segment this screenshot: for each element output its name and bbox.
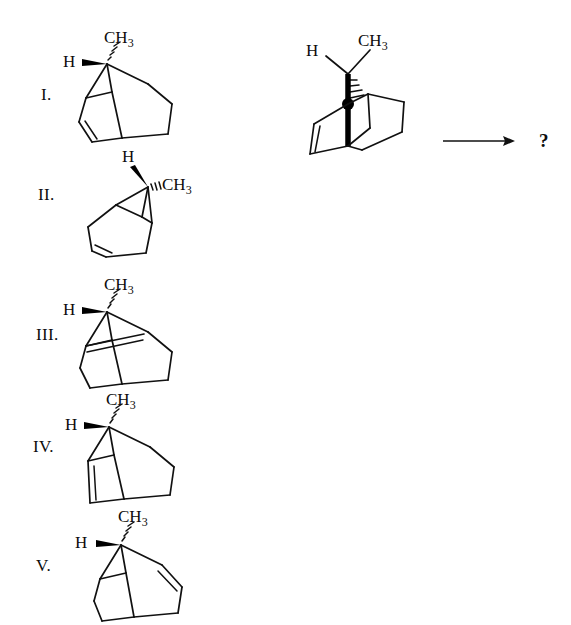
double-bond-outer-II bbox=[92, 251, 106, 257]
double-bond-outer-I bbox=[79, 122, 92, 142]
h-wedge-bond-IV bbox=[84, 422, 109, 429]
cyclopropane-bond-b-II bbox=[116, 205, 142, 217]
ring-bond-2-I bbox=[148, 84, 172, 104]
option-label-II: II. bbox=[38, 185, 54, 205]
ring-bond-4-II bbox=[88, 205, 116, 227]
bridge-bond-III bbox=[112, 340, 122, 384]
structure-option-IV: H CH3 bbox=[62, 388, 192, 508]
structure-option-V: H CH3 bbox=[72, 505, 202, 623]
h-wedge-bond-III bbox=[82, 307, 107, 314]
ring-bond-2-III bbox=[148, 332, 172, 352]
cyclopropane-bond-a-I bbox=[86, 64, 107, 98]
ring-bond-5-II bbox=[88, 227, 92, 251]
hash-bond-reactant bbox=[350, 80, 364, 98]
double-bond-inner-II bbox=[95, 245, 112, 253]
cyclopropane-bond-a-III bbox=[86, 312, 107, 346]
ring-bond-r7-reactant bbox=[348, 128, 370, 146]
option-label-V: V. bbox=[36, 556, 51, 576]
ring-bond-4-IV bbox=[124, 495, 170, 499]
ring-bond-6-III bbox=[80, 346, 86, 368]
ring-bond-1-V bbox=[121, 545, 162, 565]
ring-bond-r6-reactant bbox=[368, 94, 370, 128]
ring-bond-1-II bbox=[148, 187, 152, 223]
methyl-label-I: CH3 bbox=[104, 28, 134, 50]
cyclopropane-bond-c-II bbox=[142, 187, 148, 217]
methyl-label-reactant: CH3 bbox=[358, 31, 388, 53]
bridge-bond-V bbox=[126, 573, 134, 617]
ring-bond-3-IV bbox=[170, 467, 174, 495]
ring-bond-r5-reactant bbox=[348, 146, 362, 150]
h-label-II: H bbox=[122, 147, 134, 166]
ring-bond-r2-reactant bbox=[368, 94, 404, 102]
question-mark: ? bbox=[539, 130, 549, 152]
methyl-label-III: CH3 bbox=[104, 275, 134, 297]
ring-bond-6-I bbox=[79, 98, 86, 122]
double-bond-inner-reactant bbox=[315, 126, 320, 152]
double-bond-outer-V bbox=[162, 565, 182, 587]
h-wedge-bond-II bbox=[130, 165, 148, 187]
cyclopropane-bond-c-I bbox=[107, 64, 112, 92]
double-bond-outer-III bbox=[86, 334, 144, 346]
ring-bond-r3-reactant bbox=[402, 102, 404, 132]
double-bond-inner-I bbox=[85, 121, 97, 139]
structure-option-I: H CH3 bbox=[60, 26, 190, 151]
double-bond-inner-IV bbox=[94, 466, 96, 500]
ring-bond-5-V bbox=[102, 617, 134, 621]
ring-bond-l1-reactant bbox=[314, 104, 348, 124]
ring-bond-6-V bbox=[94, 579, 100, 601]
ring-bond-1-I bbox=[107, 64, 148, 84]
double-bond-outer-reactant bbox=[310, 124, 314, 154]
ring-bond-7-III bbox=[80, 368, 90, 388]
cyclopropane-bond-c-III bbox=[107, 312, 112, 340]
ring-bond-4-I bbox=[122, 134, 168, 138]
ring-bond-r4-reactant bbox=[362, 132, 402, 150]
methyl-hash-bond-II bbox=[151, 182, 161, 190]
ring-bond-3-V bbox=[178, 587, 182, 613]
cyclopropane-bond-c-V bbox=[121, 545, 126, 573]
cyclopropane-bond-a-V bbox=[100, 545, 121, 579]
ring-bond-3-III bbox=[168, 352, 172, 380]
methyl-label-II: CH3 bbox=[162, 175, 192, 197]
h-wedge-bond-I bbox=[82, 59, 107, 66]
reaction-arrow bbox=[443, 130, 523, 152]
methyl-label-V: CH3 bbox=[118, 507, 148, 529]
structure-reactant: H CH3 bbox=[300, 28, 440, 158]
h-label-V: H bbox=[75, 533, 87, 552]
ring-bond-2-II bbox=[146, 223, 152, 253]
ring-bond-4-V bbox=[134, 613, 178, 617]
ring-bond-4-III bbox=[122, 380, 168, 384]
ring-bond-1-III bbox=[107, 312, 148, 332]
option-label-I: I. bbox=[41, 85, 52, 105]
structure-option-II: H CH3 bbox=[80, 145, 215, 270]
bridge-bond-IV bbox=[114, 455, 124, 499]
double-bond-outer-IV bbox=[88, 461, 90, 503]
ring-bond-1-IV bbox=[109, 427, 150, 447]
chemistry-question-figure: I. H CH3 bbox=[0, 0, 571, 625]
double-bond-inner-V bbox=[158, 571, 177, 591]
ring-bond-2-IV bbox=[150, 447, 174, 467]
bridge-bond-I bbox=[112, 92, 122, 138]
cyclopropane-bond-a-II bbox=[116, 187, 148, 205]
h-wedge-bond-V bbox=[96, 540, 121, 547]
h-label-reactant: H bbox=[306, 41, 318, 60]
cyclopropane-bond-a-IV bbox=[88, 427, 109, 461]
ring-bond-7-V bbox=[94, 601, 102, 621]
ring-bond-3-I bbox=[168, 104, 172, 134]
methyl-label-IV: CH3 bbox=[106, 390, 136, 412]
bridge-bond-II bbox=[142, 217, 152, 223]
h-label-I: H bbox=[63, 52, 75, 71]
option-label-III: III. bbox=[36, 325, 58, 345]
h-bond-reactant bbox=[326, 56, 348, 74]
h-label-IV: H bbox=[65, 415, 77, 434]
methyl-bond-reactant bbox=[348, 50, 370, 74]
h-label-III: H bbox=[63, 300, 75, 319]
cyclopropane-bond-c-IV bbox=[109, 427, 114, 455]
option-label-IV: IV. bbox=[33, 437, 54, 457]
ring-bond-5-IV bbox=[90, 499, 124, 503]
structure-option-III: H CH3 bbox=[60, 272, 190, 392]
